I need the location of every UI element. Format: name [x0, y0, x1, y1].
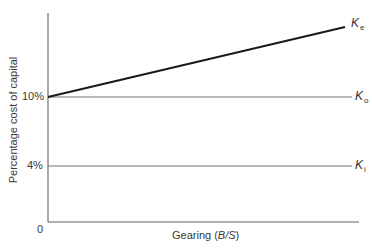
x-axis-label-suffix: ) [236, 229, 240, 241]
y-axis-label: Percentage cost of capital [7, 57, 19, 184]
series-label-ko-main: K [355, 89, 363, 103]
series-label-ke-sub: e [360, 23, 364, 32]
series-line-ke [48, 27, 345, 97]
x-axis-label-prefix: Gearing ( [172, 229, 218, 241]
chart-canvas [0, 0, 372, 249]
series-label-ke-main: K [351, 16, 359, 30]
x-axis-label: Gearing (B/S) [172, 229, 239, 241]
y-tick-4: 4% [27, 159, 43, 171]
y-tick-10: 10% [22, 90, 44, 102]
series-label-ko: Ko [355, 89, 368, 105]
series-label-ki-sub: i [364, 165, 366, 174]
series-label-ke: Ke [351, 16, 364, 32]
origin-label: 0 [37, 223, 43, 235]
x-axis-label-italic: B/S [218, 229, 236, 241]
series-label-ki-main: K [355, 158, 363, 172]
series-label-ko-sub: o [364, 96, 368, 105]
series-label-ki: Ki [355, 158, 366, 174]
